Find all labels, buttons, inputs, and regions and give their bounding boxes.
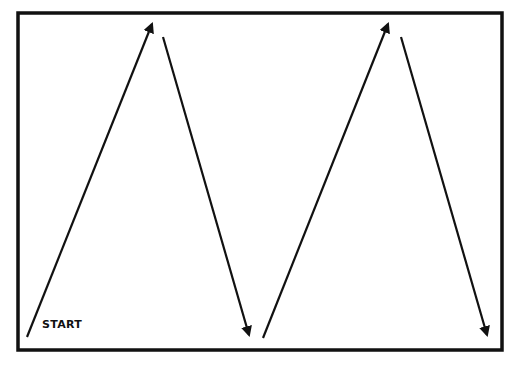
arrow-up-3 [263,24,388,338]
frame-border [18,13,502,350]
arrow-down-2 [163,37,249,335]
start-label: START [42,318,82,331]
arrow-up-1 [27,24,152,337]
zigzag-diagram [0,0,515,365]
arrow-down-4 [401,37,487,335]
